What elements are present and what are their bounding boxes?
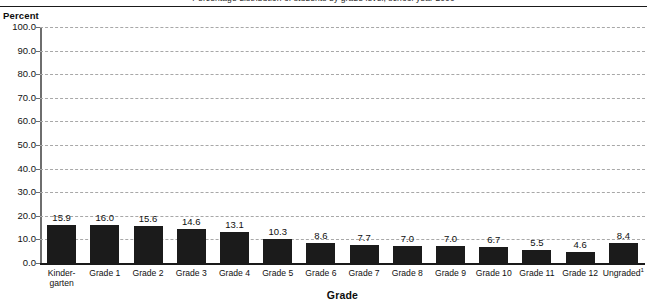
y-axis-tick: [36, 192, 40, 193]
bar-value-label: 5.5: [515, 237, 559, 248]
bar-value-label: 8.4: [601, 230, 645, 241]
y-axis-tick-label: 50.0: [0, 139, 36, 150]
y-axis-tick-label: 80.0: [0, 68, 36, 79]
x-axis-title: Grade: [40, 289, 645, 301]
bar-value-label: 10.3: [256, 226, 300, 237]
y-axis-tick: [36, 263, 40, 264]
bar: [479, 247, 508, 263]
bar-value-label: 15.9: [40, 212, 84, 223]
y-axis-tick-label: 60.0: [0, 115, 36, 126]
x-axis-category-label: Ungraded1: [597, 268, 647, 278]
cutoff-header-text: Percentage distribution of students by g…: [0, 0, 647, 3]
bar: [609, 243, 638, 263]
footnote-marker: 1: [641, 266, 644, 273]
bar-value-label: 7.0: [385, 233, 429, 244]
bar: [436, 246, 465, 263]
y-axis-tick: [36, 98, 40, 99]
x-axis-line: [40, 263, 645, 265]
gridline: [40, 27, 645, 28]
bar-value-label: 7.7: [342, 232, 386, 243]
bar-value-label: 4.6: [558, 239, 602, 250]
bar-value-label: 13.1: [212, 219, 256, 230]
y-axis-tick: [36, 145, 40, 146]
bar: [263, 239, 292, 263]
gridline: [40, 51, 645, 52]
y-axis-tick: [36, 239, 40, 240]
chart-plot-area: 100.090.080.070.060.050.040.030.020.010.…: [40, 27, 645, 263]
bar-value-label: 15.6: [126, 213, 170, 224]
y-axis-tick-label: 10.0: [0, 233, 36, 244]
y-axis-tick: [36, 51, 40, 52]
bar-value-label: 14.6: [169, 216, 213, 227]
y-axis-tick-label: 100.0: [0, 21, 36, 32]
y-axis-tick-label: 20.0: [0, 210, 36, 221]
y-axis-unit-label: Percent: [3, 10, 39, 21]
bar: [306, 243, 335, 263]
bar: [134, 226, 163, 263]
bar: [350, 245, 379, 263]
bar-value-label: 7.0: [429, 233, 473, 244]
bar: [220, 232, 249, 263]
y-axis-tick-label: 0.0: [0, 257, 36, 268]
bar-value-label: 16.0: [83, 212, 127, 223]
gridline: [40, 145, 645, 146]
bar: [47, 225, 76, 263]
y-axis-tick: [36, 169, 40, 170]
bar-value-label: 8.6: [299, 230, 343, 241]
y-axis-tick-label: 90.0: [0, 45, 36, 56]
y-axis-tick-label: 30.0: [0, 186, 36, 197]
y-axis-tick-label: 70.0: [0, 92, 36, 103]
gridline: [40, 74, 645, 75]
y-axis-tick-label: 40.0: [0, 163, 36, 174]
bar: [177, 229, 206, 263]
bar: [566, 252, 595, 263]
header-divider-rule: [0, 6, 647, 7]
gridline: [40, 121, 645, 122]
bar-value-label: 6.7: [472, 234, 516, 245]
y-axis-tick: [36, 74, 40, 75]
gridline: [40, 98, 645, 99]
gridline: [40, 169, 645, 170]
bar: [393, 246, 422, 263]
y-axis-tick: [36, 121, 40, 122]
bar: [90, 225, 119, 263]
bar: [522, 250, 551, 263]
gridline: [40, 192, 645, 193]
y-axis-tick: [36, 27, 40, 28]
